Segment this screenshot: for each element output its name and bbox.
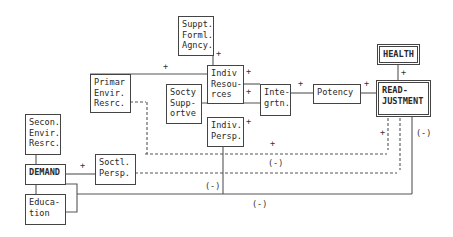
node-primar-envir-resrc: Primar Envir. Resrc. (90, 74, 131, 113)
node-socty-supportve: Socty Supp- ortve (166, 84, 202, 124)
node-integrtn: Inte- grtn. (260, 84, 291, 116)
node-potency: Potency (313, 84, 361, 104)
edge-label: + (80, 160, 85, 170)
node-secon-envir-resrc: Secon. Envir. Resrc. (25, 114, 61, 155)
node-health: HEALTH (377, 44, 420, 65)
edge-label: (-) (252, 199, 267, 209)
edge-label: + (380, 127, 385, 137)
edge-label: + (163, 61, 168, 71)
edge-label: + (401, 67, 406, 77)
edge-label: (-) (268, 158, 283, 168)
edge-label: + (246, 66, 251, 76)
node-soctl-persp: Soctl. Persp. (95, 154, 136, 185)
edge-label: (-) (416, 128, 431, 138)
edge-label: (-) (205, 181, 220, 191)
edge-label: + (246, 116, 251, 126)
node-indiv-resources: Indiv Resou- rces (207, 65, 244, 104)
node-readjustment: READ- JUSTMENT (376, 80, 431, 117)
edge-label: + (216, 48, 221, 58)
edge-label: + (364, 78, 369, 88)
edge-label: + (270, 138, 275, 148)
edge-label: + (298, 78, 303, 88)
edge-label: + (246, 86, 251, 96)
node-indiv-persp: Indiv. Persp. (207, 117, 244, 147)
node-education: Educa- tion (25, 194, 66, 225)
node-demand: DEMAND (25, 164, 66, 185)
node-suppt-formal-agency: Suppt. Forml. Agncy. (178, 16, 214, 56)
